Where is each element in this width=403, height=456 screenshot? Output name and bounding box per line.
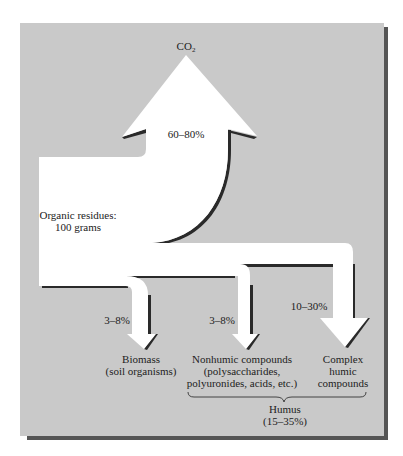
biomass-line1: Biomass [106, 353, 177, 365]
source-line1: Organic residues: [39, 209, 116, 221]
nonhumic-line2: (polysaccharides, [187, 365, 297, 377]
biomass-line2: (soil organisms) [106, 365, 177, 377]
nonhumic-line3: polyuronides, acids, etc.) [187, 377, 297, 389]
complex-line1: Complex [318, 353, 369, 365]
source-line2: 100 grams [39, 221, 116, 233]
co2-label: CO2 [177, 40, 196, 56]
nonhumic-label: Nonhumic compounds (polysaccharides, pol… [187, 353, 297, 389]
biomass-percent: 3–8% [104, 314, 130, 326]
diagram-stage: CO2 60–80% Organic residues: 100 grams 3… [0, 0, 403, 456]
co2-percent: 60–80% [168, 128, 205, 140]
nonhumic-line1: Nonhumic compounds [187, 353, 297, 365]
complex-line3: compounds [318, 377, 369, 389]
biomass-label: Biomass (soil organisms) [106, 353, 177, 377]
nonhumic-percent: 3–8% [209, 314, 235, 326]
complex-percent: 10–30% [291, 300, 328, 312]
complex-label: Complex humic compounds [318, 353, 369, 389]
humus-title: Humus [263, 403, 307, 415]
humus-label: Humus (15–35%) [263, 403, 307, 427]
complex-line2: humic [318, 365, 369, 377]
humus-percent: (15–35%) [263, 415, 307, 427]
source-label: Organic residues: 100 grams [39, 209, 116, 233]
